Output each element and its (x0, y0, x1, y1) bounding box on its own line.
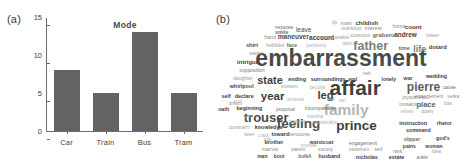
bar-chart-plot-area: Mode 051015 CarTrainBusTram (46, 18, 203, 132)
word-cloud-word: ball (327, 98, 334, 103)
y-axis-tick-mark (47, 139, 50, 140)
word-cloud-word: slipper (404, 136, 420, 141)
word-cloud-word: woman (425, 143, 442, 148)
word-cloud-word: perplexity (306, 44, 327, 49)
word-cloud-word: rule (264, 138, 272, 143)
y-axis-tick: 5 (38, 84, 47, 102)
word-cloud-word: nicholas (356, 155, 378, 160)
bar (93, 93, 119, 131)
word-cloud-word: keen (244, 133, 254, 138)
word-cloud-word: beginning (237, 107, 263, 112)
bar-slot: Bus (125, 18, 164, 131)
word-cloud-word: father (353, 40, 388, 53)
word-cloud-word: crack (258, 134, 269, 139)
word-cloud-word: estate (389, 155, 405, 160)
word-cloud-word: daughter (233, 75, 253, 80)
word-cloud-word: time (398, 46, 410, 52)
word-cloud-word: natasha's (349, 147, 369, 152)
word-cloud-word: marshal (307, 114, 323, 119)
word-cloud-word: verka (447, 95, 459, 100)
word-cloud-word: dotard (429, 45, 447, 51)
y-axis-tick-label: 0 (38, 127, 47, 136)
bar (171, 93, 197, 131)
word-cloud-word: bolkA (298, 155, 311, 160)
word-cloud-word: ending (288, 77, 306, 82)
word-cloud-word: home (393, 24, 406, 29)
x-axis-tick-label: Car (60, 138, 73, 147)
x-axis-tick-mark (106, 131, 107, 134)
bar-slot: Train (86, 18, 125, 131)
word-cloud-word: andrew (394, 32, 416, 38)
word-cloud-word: boot (274, 154, 285, 159)
word-cloud-word: command (406, 129, 431, 134)
word-cloud-word: shirt (246, 43, 258, 49)
word-cloud-word: end (348, 76, 357, 81)
y-axis-tick-label: 5 (38, 89, 47, 98)
word-cloud-word: property (289, 119, 306, 124)
word-cloud-word: cause (443, 86, 456, 91)
word-cloud-word: instruction (399, 121, 427, 126)
word-cloud-word: considerable (311, 121, 337, 126)
word-cloud-word: pains (403, 143, 416, 148)
word-cloud-word: god's (436, 136, 450, 141)
word-cloud-word: smile (275, 31, 288, 36)
word-cloud-word: idea (432, 150, 441, 155)
y-axis-tick: 10 (34, 46, 47, 64)
word-cloud-word: graberu (372, 32, 394, 38)
word-cloud-word: engagement (349, 141, 377, 146)
word-cloud-word: rhetor (437, 121, 452, 126)
word-cloud-word: society (318, 147, 333, 152)
word-cloud-word: oath (218, 108, 229, 113)
word-cloud-word: jest (245, 115, 252, 120)
x-axis-tick-mark (67, 131, 68, 134)
x-axis-tick-label: Bus (138, 138, 152, 147)
word-cloud-word: face (287, 44, 297, 49)
word-cloud-word: parent (292, 147, 306, 152)
panel-a-bar-chart: (a) Mode 051015 CarTrainBusTram (0, 0, 212, 162)
word-cloud-word: hobbled (266, 43, 284, 48)
word-cloud-word: marrow (262, 147, 278, 152)
word-cloud-word: promise (301, 144, 317, 149)
word-cloud-word: intercourse (287, 133, 311, 138)
x-axis-tick-mark (184, 131, 185, 134)
y-axis-tick-label: 15 (34, 13, 47, 22)
word-cloud-word: rebels (401, 109, 414, 114)
word-cloud-word: ran (339, 99, 346, 104)
word-cloud-word: serf (374, 147, 382, 152)
word-cloud-word: knowledge (255, 125, 283, 130)
word-cloud-word: hand (264, 35, 276, 40)
bar-chart-bars: CarTrainBusTram (47, 18, 203, 131)
word-cloud-word: wedding (426, 74, 447, 79)
word-cloud-word: ankle (417, 156, 428, 161)
word-cloud-word: year (261, 91, 285, 103)
word-cloud-word: count (405, 24, 422, 30)
word-cloud-word: tailor (342, 41, 352, 46)
word-cloud-word: loss (444, 102, 452, 107)
word-cloud-word: covetous (350, 32, 370, 37)
word-cloud-word: man (257, 154, 267, 159)
y-axis-tick: 0 (38, 122, 47, 140)
word-cloud-word: nutritious (341, 26, 361, 31)
word-cloud-word: lip (332, 21, 337, 26)
bar-slot: Car (47, 18, 86, 131)
word-cloud-word: whirlpool (230, 85, 254, 90)
x-axis-tick-mark (145, 131, 146, 134)
word-cloud-word: moment (281, 85, 298, 90)
bar (132, 32, 158, 131)
word-cloud-word: joyousness (403, 96, 427, 101)
word-cloud-word: state (257, 75, 283, 86)
word-cloud-word: intrigue (237, 59, 259, 65)
word-cloud-word: proposal (276, 107, 295, 112)
word-cloud-word: self (222, 94, 231, 99)
word-cloud-word: lesser (426, 33, 439, 38)
word-cloud-word: pierre (407, 81, 440, 93)
figure-container: (a) Mode 051015 CarTrainBusTram (b) emba… (0, 0, 470, 162)
panel-a-label: (a) (7, 13, 21, 25)
word-cloud-word: prince (336, 119, 377, 133)
y-axis-tick-label: 10 (34, 51, 47, 60)
word-cloud-word: lonely (381, 76, 395, 81)
word-cloud-word: war (404, 76, 413, 81)
word-cloud-area: embarrassmentaffairfamilyfeelingprincetr… (212, 0, 470, 162)
x-axis-tick-label: Train (97, 138, 115, 147)
word-cloud-word: waiter (249, 51, 262, 56)
